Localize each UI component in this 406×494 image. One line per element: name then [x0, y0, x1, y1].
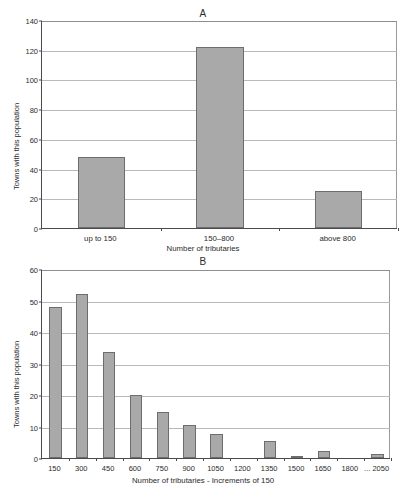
chart-panel-b: B Towns with this population 01020304050… [0, 250, 406, 494]
y-axis-tick-mark [39, 427, 42, 428]
x-axis-tick-mark [176, 458, 177, 461]
x-axis-tick-label: above 800 [319, 234, 355, 243]
gridline [42, 333, 390, 334]
x-axis-tick-label: 750 [156, 464, 169, 473]
y-axis-tick-label: 60 [30, 135, 38, 144]
x-axis-tick-mark [149, 458, 150, 461]
chart-b-y-axis-title: Towns with this population [12, 341, 21, 428]
y-axis-tick-mark [39, 396, 42, 397]
bar [78, 157, 125, 228]
x-axis-tick-label: 1500 [288, 464, 305, 473]
bar [196, 47, 243, 228]
x-axis-tick-mark [96, 458, 97, 461]
x-axis-tick-mark [391, 458, 392, 461]
y-axis-tick-label: 40 [30, 329, 38, 338]
chart-panel-a: A Towns with this population 02040608010… [0, 0, 406, 250]
y-axis-tick-label: 50 [30, 297, 38, 306]
y-axis-tick-mark [39, 110, 42, 111]
chart-b-plot-area: 0102030405060 [41, 270, 390, 459]
bar [291, 456, 303, 458]
y-axis-tick-mark [39, 301, 42, 302]
x-axis-tick-mark [69, 458, 70, 461]
bar [103, 352, 115, 458]
y-axis-tick-mark [39, 169, 42, 170]
x-axis-tick-mark [279, 228, 280, 231]
y-axis-tick-label: 80 [30, 106, 38, 115]
x-axis-tick-label: 1800 [341, 464, 358, 473]
x-axis-tick-mark [364, 458, 365, 461]
y-axis-tick-mark [39, 50, 42, 51]
x-axis-tick-mark [161, 228, 162, 231]
bar [315, 191, 362, 228]
gridline [42, 302, 390, 303]
chart-b-title: B [0, 256, 406, 267]
gridline [42, 396, 390, 397]
y-axis-tick-mark [39, 21, 42, 22]
gridline [42, 270, 390, 271]
gridline [42, 21, 397, 22]
bar [183, 425, 195, 458]
x-axis-tick-mark [203, 458, 204, 461]
y-axis-tick-label: 10 [30, 423, 38, 432]
x-axis-tick-mark [337, 458, 338, 461]
x-axis-tick-label: 300 [75, 464, 88, 473]
bar [157, 412, 169, 458]
x-axis-tick-mark [230, 458, 231, 461]
chart-a-title: A [0, 8, 406, 19]
x-axis-tick-label: 900 [182, 464, 195, 473]
x-axis-tick-label: 1200 [234, 464, 251, 473]
y-axis-tick-label: 30 [30, 360, 38, 369]
x-axis-tick-mark [123, 458, 124, 461]
x-axis-tick-label: ... 2050 [364, 464, 389, 473]
y-axis-tick-label: 140 [25, 17, 38, 26]
chart-b-x-axis-title: Number of tributaries - Increments of 15… [0, 476, 406, 485]
y-axis-tick-mark [39, 459, 42, 460]
x-axis-tick-label: 150 [48, 464, 61, 473]
bar [49, 307, 61, 458]
y-axis-tick-label: 120 [25, 46, 38, 55]
y-axis-tick-label: 60 [30, 266, 38, 275]
y-axis-tick-label: 0 [34, 225, 38, 234]
y-axis-tick-mark [39, 333, 42, 334]
gridline [42, 365, 390, 366]
y-axis-tick-label: 20 [30, 195, 38, 204]
plot-frame-right [396, 21, 397, 228]
x-axis-tick-mark [398, 228, 399, 231]
chart-a-plot-area: 020406080100120140 [41, 21, 397, 229]
bar [76, 294, 88, 458]
x-axis-tick-mark [310, 458, 311, 461]
x-axis-tick-mark [284, 458, 285, 461]
x-axis-tick-label: 1050 [207, 464, 224, 473]
y-axis-tick-label: 20 [30, 392, 38, 401]
y-axis-tick-label: 100 [25, 76, 38, 85]
y-axis-tick-mark [39, 139, 42, 140]
bar [264, 441, 276, 458]
x-axis-tick-label: 600 [129, 464, 142, 473]
x-axis-tick-mark [257, 458, 258, 461]
y-axis-tick-mark [39, 364, 42, 365]
y-axis-tick-mark [39, 270, 42, 271]
x-axis-tick-label: up to 150 [84, 234, 117, 243]
x-axis-tick-label: 150–800 [204, 234, 234, 243]
x-axis-tick-label: 450 [102, 464, 115, 473]
x-axis-tick-label: 1350 [261, 464, 278, 473]
chart-a-y-axis-title: Towns with this population [12, 103, 21, 190]
y-axis-tick-mark [39, 199, 42, 200]
bar [371, 454, 383, 458]
y-axis-tick-mark [39, 229, 42, 230]
y-axis-tick-label: 40 [30, 165, 38, 174]
gridline [42, 428, 390, 429]
x-axis-tick-label: 1650 [315, 464, 332, 473]
bar [130, 395, 142, 458]
bar [210, 434, 222, 458]
bar [318, 451, 330, 458]
y-axis-tick-label: 0 [34, 455, 38, 464]
y-axis-tick-mark [39, 80, 42, 81]
